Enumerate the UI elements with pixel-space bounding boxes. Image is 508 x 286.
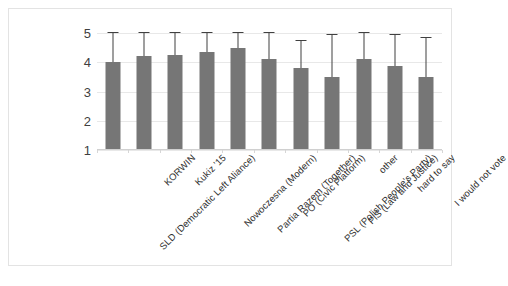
error-bar-cap: [107, 32, 118, 33]
error-bar-stem: [112, 33, 113, 62]
bar-group: [254, 33, 285, 150]
x-category-label: other: [376, 152, 399, 175]
y-tick-label: 5: [84, 26, 91, 41]
plot-area: 12345: [97, 33, 442, 150]
error-bar-cap: [233, 32, 244, 33]
bar-group: [128, 33, 159, 150]
y-tick-label: 2: [84, 113, 91, 128]
bar-series: [97, 33, 442, 150]
error-bar-stem: [426, 38, 427, 77]
x-axis-category-labels: SLD (Democratic Left Aliance)KORWINKukiz…: [97, 152, 442, 267]
x-category-label-text: I would not vote: [452, 152, 508, 208]
error-bar-stem: [269, 33, 270, 59]
error-bar-cap: [295, 40, 306, 41]
bar: [356, 59, 371, 150]
x-category-label: KORWIN: [162, 152, 198, 188]
error-bar-stem: [300, 41, 301, 68]
bar-group: [379, 33, 410, 150]
bar: [325, 77, 340, 150]
bar: [199, 52, 214, 150]
bar: [231, 48, 246, 150]
bar-group: [160, 33, 191, 150]
error-bar-cap: [201, 32, 212, 33]
error-bar-cap: [421, 37, 432, 38]
x-category-label: PiS (Law and Justice): [366, 152, 440, 226]
chart-frame: 12345 SLD (Democratic Left Aliance)KORWI…: [8, 8, 452, 266]
x-category-label-text: KORWIN: [162, 152, 198, 188]
bar: [168, 55, 183, 150]
bar: [419, 77, 434, 150]
bar-group: [411, 33, 442, 150]
x-category-label-text: other: [376, 152, 399, 175]
bar: [387, 66, 402, 150]
bar: [262, 59, 277, 150]
bar-group: [348, 33, 379, 150]
x-category-label: I would not vote: [452, 152, 508, 208]
error-bar-stem: [332, 35, 333, 77]
error-bar-cap: [264, 32, 275, 33]
x-tick-mark: [442, 150, 443, 153]
bar: [293, 68, 308, 150]
bar-group: [222, 33, 253, 150]
x-category-label-text: PiS (Law and Justice): [366, 152, 440, 226]
error-bar-cap: [389, 34, 400, 35]
y-tick-label: 1: [84, 143, 91, 158]
bar-group: [191, 33, 222, 150]
error-bar-stem: [363, 33, 364, 59]
y-tick-label: 4: [84, 55, 91, 70]
error-bar-stem: [394, 35, 395, 66]
bar-group: [285, 33, 316, 150]
bar-group: [97, 33, 128, 150]
error-bar-stem: [206, 33, 207, 52]
error-bar-cap: [170, 32, 181, 33]
error-bar-stem: [144, 33, 145, 56]
error-bar-cap: [139, 32, 150, 33]
bar: [137, 56, 152, 150]
y-tick-label: 3: [84, 84, 91, 99]
bar: [105, 62, 120, 150]
error-bar-cap: [358, 32, 369, 33]
bar-group: [317, 33, 348, 150]
error-bar-stem: [175, 33, 176, 55]
error-bar-cap: [327, 34, 338, 35]
error-bar-stem: [238, 33, 239, 48]
